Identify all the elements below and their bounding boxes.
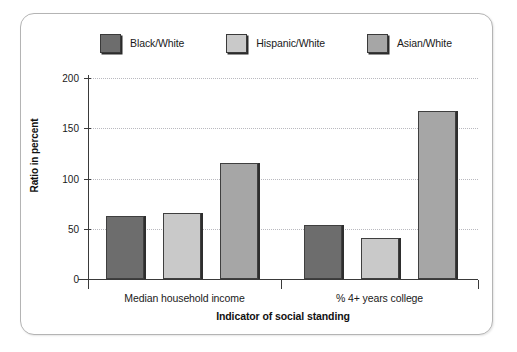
bar-chart: Black/White Hispanic/White Asian/White R… (0, 0, 517, 352)
bar-black-white-g1 (304, 225, 342, 279)
y-tick-label: 200 (45, 73, 79, 84)
group-separator-tick (281, 280, 282, 289)
group-separator-tick (88, 280, 89, 289)
legend-item-black-white: Black/White (100, 34, 184, 53)
y-axis-line (88, 75, 89, 279)
group-separator-tick (478, 280, 479, 289)
y-tick-label: 0 (45, 274, 79, 285)
x-axis-group-label: % 4+ years college (281, 292, 478, 304)
group-baseline (88, 289, 281, 290)
legend-swatch-black-white (100, 34, 121, 53)
legend-label-black-white: Black/White (130, 37, 184, 49)
legend-swatch-asian-white (367, 34, 388, 53)
y-axis-title: Ratio in percent (29, 96, 40, 216)
legend-item-asian-white: Asian/White (367, 34, 452, 53)
y-tick-label: 150 (45, 123, 79, 134)
x-axis-group-label: Median household income (88, 292, 281, 304)
legend-item-hispanic-white: Hispanic/White (226, 34, 325, 53)
legend-swatch-hispanic-white (226, 34, 247, 53)
x-axis-title: Indicator of social standing (88, 310, 478, 322)
bar-hispanic-white-g0 (163, 213, 201, 279)
bar-black-white-g0 (106, 216, 144, 279)
bar-asian-white-g0 (220, 163, 258, 279)
chart-legend: Black/White Hispanic/White Asian/White (100, 32, 480, 54)
legend-label-asian-white: Asian/White (397, 37, 452, 49)
bar-hispanic-white-g1 (361, 238, 399, 279)
bar-asian-white-g1 (418, 111, 456, 279)
x-axis-line (78, 279, 478, 280)
y-tick-label: 50 (45, 223, 79, 234)
y-tick-label: 100 (45, 173, 79, 184)
legend-label-hispanic-white: Hispanic/White (256, 37, 325, 49)
gridline (88, 78, 478, 80)
group-baseline (281, 289, 478, 290)
